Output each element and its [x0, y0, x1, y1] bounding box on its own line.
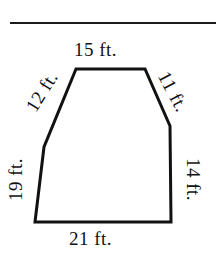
side-label-right: 14 ft. [184, 158, 203, 201]
side-label-bottom: 21 ft. [69, 229, 112, 248]
hexagon-outline [35, 69, 171, 222]
side-label-top: 15 ft. [74, 40, 117, 59]
figure-page: 15 ft. 12 ft. 19 ft. 11 ft. 14 ft. 21 ft… [0, 0, 224, 256]
side-label-lower-left: 19 ft. [6, 158, 25, 201]
